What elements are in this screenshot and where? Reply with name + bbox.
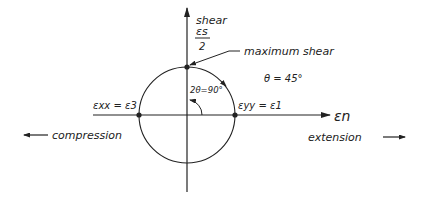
max-shear-label: maximum shear xyxy=(244,45,335,58)
eyy-label: εyy = ε1 xyxy=(238,100,282,111)
extension-label: extension xyxy=(308,131,362,144)
compression-label: compression xyxy=(52,129,122,142)
point-exx xyxy=(136,112,141,117)
point-max-shear xyxy=(184,64,189,69)
theta-label: θ = 45° xyxy=(264,73,303,84)
exx-label: εxx = ε3 xyxy=(93,100,137,111)
max-shear-leader xyxy=(190,51,240,65)
shear-denominator: 2 xyxy=(199,41,205,52)
shear-symbol: εs xyxy=(196,25,208,38)
two-theta-label: 2θ=90° xyxy=(190,85,223,95)
point-eyy xyxy=(232,112,237,117)
mohr-circle-diagram: shear εs 2 maximum shear θ = 45° 2θ=90° … xyxy=(0,0,421,202)
two-theta-arc xyxy=(190,100,202,115)
normal-strain-symbol: εn xyxy=(334,108,350,124)
